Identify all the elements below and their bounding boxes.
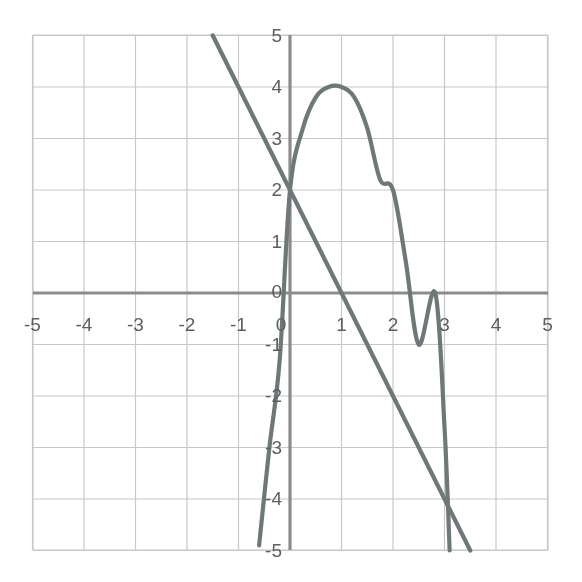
y-tick-label: 5 bbox=[271, 25, 282, 46]
y-tick-label: -2 bbox=[265, 385, 282, 406]
x-tick-label: -4 bbox=[76, 314, 93, 335]
y-tick-label: 3 bbox=[271, 128, 282, 149]
chart-canvas: -5-4-3-2-1012345 543210-1-2-3-4-5 bbox=[0, 0, 582, 582]
x-tick-label: 1 bbox=[336, 314, 347, 335]
x-tick-label: 2 bbox=[388, 314, 399, 335]
x-tick-label: 3 bbox=[439, 314, 450, 335]
x-tick-label: 0 bbox=[276, 314, 287, 335]
y-tick-label: 1 bbox=[271, 231, 282, 252]
x-tick-label: -3 bbox=[127, 314, 144, 335]
x-tick-label: -1 bbox=[230, 314, 247, 335]
y-tick-label: -5 bbox=[265, 540, 282, 561]
y-tick-label: 4 bbox=[271, 76, 282, 97]
y-tick-label: -4 bbox=[265, 488, 282, 509]
y-tick-label: 0 bbox=[271, 281, 282, 302]
x-tick-label: 5 bbox=[542, 314, 553, 335]
x-tick-label: -2 bbox=[179, 314, 196, 335]
x-tick-label: -5 bbox=[24, 314, 41, 335]
coordinate-grid-chart: -5-4-3-2-1012345 543210-1-2-3-4-5 bbox=[0, 0, 582, 582]
y-tick-label: -3 bbox=[265, 437, 282, 458]
x-tick-label: 4 bbox=[491, 314, 502, 335]
y-tick-label: 2 bbox=[271, 179, 282, 200]
y-tick-label: -1 bbox=[265, 334, 282, 355]
